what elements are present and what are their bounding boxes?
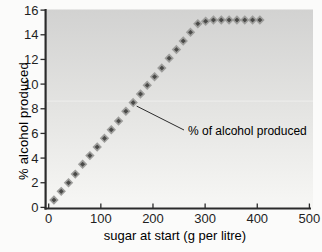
y-tick-label: 16: [24, 3, 38, 18]
y-tick-label: 8: [31, 101, 38, 116]
scan-artifact-line: [47, 101, 314, 102]
fermentation-chart-figure: 01002003004005000246810121416 % alcohol …: [0, 0, 322, 252]
x-tick-label: 300: [194, 211, 216, 226]
y-tick-label: 2: [31, 175, 38, 190]
y-tick-label: 14: [24, 27, 38, 42]
series-annotation-label: % of alcohol produced: [188, 124, 307, 138]
y-tick-label: 6: [31, 126, 38, 141]
x-tick-label: 400: [246, 211, 268, 226]
y-tick-label: 0: [31, 200, 38, 215]
y-tick-label: 4: [31, 151, 38, 166]
x-tick-label: 200: [142, 211, 164, 226]
y-axis-label: % alcohol produced: [16, 62, 31, 180]
plot-area-background: [47, 10, 314, 209]
x-tick-label: 100: [90, 211, 112, 226]
x-axis-label: sugar at start (g per litre): [104, 228, 246, 243]
x-tick-label: 0: [45, 211, 52, 226]
x-tick-label: 500: [299, 211, 321, 226]
